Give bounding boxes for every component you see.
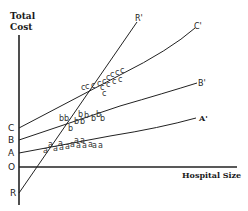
end-label-r-prime: R'	[135, 14, 143, 23]
svg-text:c: c	[91, 81, 95, 90]
end-label-c-prime: C'	[194, 22, 202, 31]
svg-text:a: a	[98, 141, 103, 150]
svg-text:a: a	[59, 143, 64, 152]
svg-text:c: c	[106, 80, 110, 89]
intercept-label-r: R	[10, 188, 16, 198]
intercept-label-a: A	[8, 148, 15, 158]
svg-text:c: c	[118, 75, 122, 84]
end-label-a-prime: A'	[198, 113, 208, 123]
svg-text:c: c	[120, 66, 124, 75]
svg-text:a: a	[82, 141, 87, 150]
svg-text:c: c	[112, 77, 116, 86]
svg-text:c: c	[85, 82, 89, 91]
x-axis-title: Hospital Size	[182, 170, 241, 180]
y-axis-title-line2: Cost	[10, 22, 33, 32]
line-b-prime	[19, 83, 197, 140]
svg-text:a: a	[92, 141, 97, 150]
svg-text:b: b	[68, 124, 73, 133]
y-axis-title-line1: Total	[10, 11, 36, 21]
svg-text:b: b	[78, 110, 83, 119]
svg-text:c: c	[102, 89, 106, 98]
svg-text:b: b	[84, 111, 89, 120]
end-label-b-prime: B'	[198, 79, 206, 88]
svg-text:b: b	[64, 114, 69, 123]
intercept-label-c: C	[8, 123, 14, 133]
origin-label: O	[8, 162, 15, 172]
intercept-label-b: B	[8, 135, 14, 145]
cost-curve-diagram: Total Cost Hospital Size C B A O R R' C'…	[0, 0, 248, 211]
scatter-group-b: b b b b b b b b b b	[59, 110, 105, 133]
svg-text:b: b	[100, 114, 105, 123]
